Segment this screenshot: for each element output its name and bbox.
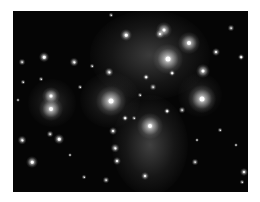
nebula-glow xyxy=(112,95,188,192)
star-s40 xyxy=(234,143,238,147)
star-s29 xyxy=(39,77,44,82)
star-core xyxy=(159,33,161,35)
star-core xyxy=(236,145,237,146)
star-core xyxy=(215,51,217,53)
star-atlas xyxy=(188,85,216,113)
star-core xyxy=(181,109,183,111)
star-asterope xyxy=(156,22,172,38)
nebula-glow xyxy=(28,79,76,127)
star-core xyxy=(23,82,24,83)
nebula-glow xyxy=(80,72,140,128)
star-core xyxy=(163,29,166,32)
star-core xyxy=(134,118,135,119)
star-core xyxy=(73,61,75,63)
star-s28 xyxy=(21,80,26,85)
star-alcyone xyxy=(153,44,183,74)
star-s22 xyxy=(164,108,170,114)
star-s6 xyxy=(26,156,38,168)
star-core xyxy=(243,171,245,173)
star-core xyxy=(148,124,152,128)
star-s27 xyxy=(109,13,114,18)
star-core xyxy=(43,56,46,59)
star-core xyxy=(92,66,93,67)
star-s19 xyxy=(150,84,157,91)
star-s23 xyxy=(122,115,128,121)
star-taygeta xyxy=(39,97,63,121)
star-core xyxy=(145,76,147,78)
star-core xyxy=(41,79,42,80)
star-core xyxy=(140,95,141,96)
star-s34 xyxy=(218,128,223,133)
star-s13 xyxy=(103,177,110,184)
star-s31 xyxy=(132,116,137,121)
star-core xyxy=(124,117,126,119)
star-core xyxy=(114,147,116,149)
star-s18 xyxy=(212,48,220,56)
star-core xyxy=(194,161,196,163)
star-core xyxy=(111,15,112,16)
star-s17 xyxy=(238,54,244,60)
star-core xyxy=(116,160,118,162)
star-s38 xyxy=(195,138,199,142)
star-core xyxy=(31,161,34,164)
star-s15 xyxy=(19,59,26,66)
star-s21 xyxy=(179,107,186,114)
star-core xyxy=(58,138,61,141)
star-core xyxy=(152,86,154,88)
star-core xyxy=(200,97,205,102)
star-s37 xyxy=(138,93,143,98)
star-core xyxy=(112,130,114,132)
star-s20 xyxy=(143,74,149,80)
star-s36 xyxy=(68,153,72,157)
star-core xyxy=(108,71,110,73)
star-maia xyxy=(178,32,200,54)
star-pleione xyxy=(196,64,210,78)
star-core xyxy=(70,155,71,156)
pleiades-photo xyxy=(13,11,248,192)
star-core xyxy=(187,41,191,45)
star-s1 xyxy=(120,29,132,41)
star-core xyxy=(84,177,85,178)
star-s11 xyxy=(113,157,121,165)
star-s33 xyxy=(169,70,175,76)
star-s30 xyxy=(78,85,83,90)
star-core xyxy=(166,57,171,62)
star-s32 xyxy=(90,64,95,69)
star-s24 xyxy=(192,159,199,166)
star-s8 xyxy=(54,134,64,144)
star-core xyxy=(171,72,173,74)
star-core xyxy=(242,182,243,183)
star-core xyxy=(18,100,19,101)
star-core xyxy=(21,61,23,63)
star-core xyxy=(166,110,168,112)
star-s12 xyxy=(109,127,117,135)
star-core xyxy=(109,99,114,104)
star-core xyxy=(240,56,242,58)
star-electra xyxy=(96,86,126,116)
star-core xyxy=(202,70,205,73)
star-core xyxy=(80,87,81,88)
star-core xyxy=(49,133,51,135)
star-core xyxy=(144,175,146,177)
star-core xyxy=(230,27,232,29)
star-s14 xyxy=(141,172,149,180)
star-core xyxy=(49,107,53,111)
star-s35 xyxy=(82,175,87,180)
star-core xyxy=(21,139,23,141)
star-celaeno xyxy=(42,87,60,105)
star-s2 xyxy=(155,29,165,39)
star-core xyxy=(50,95,53,98)
nebula-glow xyxy=(90,11,210,100)
star-s26 xyxy=(240,180,245,185)
star-core xyxy=(197,140,198,141)
star-s7 xyxy=(18,136,27,145)
star-s16 xyxy=(228,25,235,32)
star-core xyxy=(105,179,107,181)
star-s4 xyxy=(70,58,79,67)
star-core xyxy=(125,34,128,37)
star-s5 xyxy=(105,68,114,77)
nebula-glow xyxy=(178,73,222,117)
star-s9 xyxy=(47,131,54,138)
star-s3 xyxy=(39,52,49,62)
star-core xyxy=(220,130,221,131)
